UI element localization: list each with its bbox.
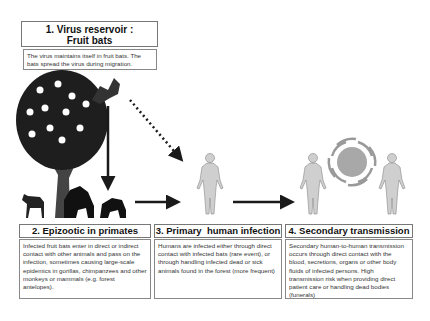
stage2-description: Infected fruit bats enter in direct or i… [19, 239, 151, 299]
dotted-arrow-icon [130, 100, 180, 158]
antelope-icon [22, 194, 44, 218]
stage1-title-line1: 1. Virus reservoir : [22, 24, 157, 35]
stage1-title-line2: Fruit bats [22, 35, 157, 46]
stage4-title: 4. Secondary transmission [285, 224, 413, 238]
fruit-tree-icon [16, 70, 108, 218]
stage3-description: Humans are infected either through direc… [154, 239, 282, 299]
human-figure-icon [197, 154, 223, 215]
chimpanzee-icon [100, 198, 126, 218]
human-figure-icon [300, 154, 326, 215]
stage2-title: 2. Epizootic in primates [19, 224, 151, 238]
human-figure-icon [379, 154, 405, 215]
stage1-title: 1. Virus reservoir : Fruit bats [21, 21, 158, 47]
stage3-title: 3. Primary human infection [154, 224, 282, 238]
stage4-description: Secondary human-to-human transmission oc… [285, 239, 413, 299]
virus-icon [329, 139, 375, 185]
stage1-description: The virus maintains itself in fruit bats… [23, 49, 157, 70]
